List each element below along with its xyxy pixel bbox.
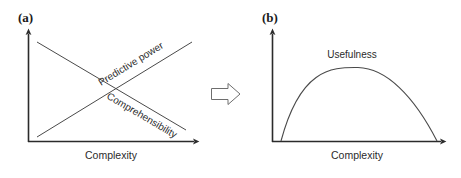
panel-a-line-comprehensibility	[37, 42, 186, 130]
panel-a-tag: (a)	[18, 10, 33, 25]
transition-arrow-group	[212, 84, 241, 105]
panel-a-label-predictive-power: Predictive power	[96, 39, 165, 87]
figure-container: (a) Predictive power Comprehensibility C…	[0, 0, 461, 178]
panel-b-x-axis-label: Complexity	[331, 149, 384, 161]
panel-b-label-usefulness: Usefulness	[327, 49, 376, 60]
panel-a-x-axis-label: Complexity	[85, 149, 138, 161]
panel-b: (b) Usefulness Complexity	[262, 10, 441, 161]
figure-svg: (a) Predictive power Comprehensibility C…	[0, 0, 461, 178]
panel-a: (a) Predictive power Comprehensibility C…	[18, 10, 194, 161]
panel-b-tag: (b)	[262, 10, 278, 25]
panel-a-label-comprehensibility: Comprehensibility	[105, 90, 179, 140]
panel-b-curve-usefulness	[281, 67, 437, 141]
right-arrow-icon	[212, 84, 241, 105]
